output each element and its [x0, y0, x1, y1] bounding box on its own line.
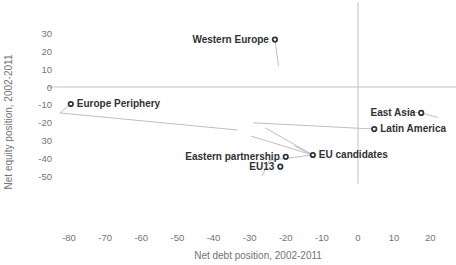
y-tick-label: 20 [41, 46, 52, 57]
data-point[interactable]: Western Europe [192, 34, 278, 45]
y-axis-ticks: 3020100-10-2030-40-50 [38, 28, 52, 182]
point-marker-center [311, 154, 314, 157]
point-label: East Asia [371, 107, 416, 118]
y-tick-label: -40 [38, 153, 52, 164]
x-tick-label: -50 [171, 232, 185, 243]
point-label: EU candidates [319, 149, 388, 160]
x-tick-label: -40 [207, 232, 221, 243]
point-label: Western Europe [192, 34, 269, 45]
y-tick-label: -50 [38, 171, 52, 182]
point-label: Europe Periphery [77, 98, 161, 109]
point-label: EU13 [249, 161, 274, 172]
point-marker-center [69, 103, 72, 106]
data-point[interactable]: EU13 [249, 161, 283, 172]
x-tick-label: 20 [425, 232, 436, 243]
x-axis-title: Net debt position, 2002-2011 [194, 250, 322, 261]
y-tick-label: 0 [47, 82, 52, 93]
point-marker-center [284, 155, 287, 158]
y-tick-label: -10 [38, 99, 52, 110]
x-tick-label: -30 [243, 232, 257, 243]
y-tick-label: 30 [41, 28, 52, 39]
scatter-chart: -80-70-60-50-40-30-20-1001020 3020100-10… [0, 0, 456, 265]
x-tick-label: 10 [389, 232, 400, 243]
data-point[interactable]: Latin America [371, 123, 446, 134]
trajectory-path [275, 40, 279, 66]
y-tick-label: 30 [41, 135, 52, 146]
y-axis-title: Net equity position, 2002-2011 [3, 54, 14, 189]
data-point[interactable]: EU candidates [310, 149, 388, 160]
y-tick-label: 10 [41, 64, 52, 75]
point-label: Latin America [380, 123, 446, 134]
trajectory-path [253, 123, 374, 129]
x-tick-label: 0 [355, 232, 360, 243]
x-tick-label: -20 [279, 232, 293, 243]
y-tick-label: -20 [38, 117, 52, 128]
data-point[interactable]: Europe Periphery [68, 98, 161, 109]
x-tick-label: -80 [62, 232, 76, 243]
point-marker-center [373, 128, 376, 131]
point-marker-center [279, 165, 282, 168]
point-marker-center [420, 112, 423, 115]
x-tick-label: -10 [315, 232, 329, 243]
chart-canvas: -80-70-60-50-40-30-20-1001020 3020100-10… [0, 0, 456, 265]
data-points: Western EuropeEurope PeripheryEast AsiaL… [68, 34, 447, 172]
x-axis-ticks: -80-70-60-50-40-30-20-1001020 [62, 232, 435, 243]
x-tick-label: -70 [98, 232, 112, 243]
x-tick-label: -60 [134, 232, 148, 243]
point-marker-center [274, 38, 277, 41]
